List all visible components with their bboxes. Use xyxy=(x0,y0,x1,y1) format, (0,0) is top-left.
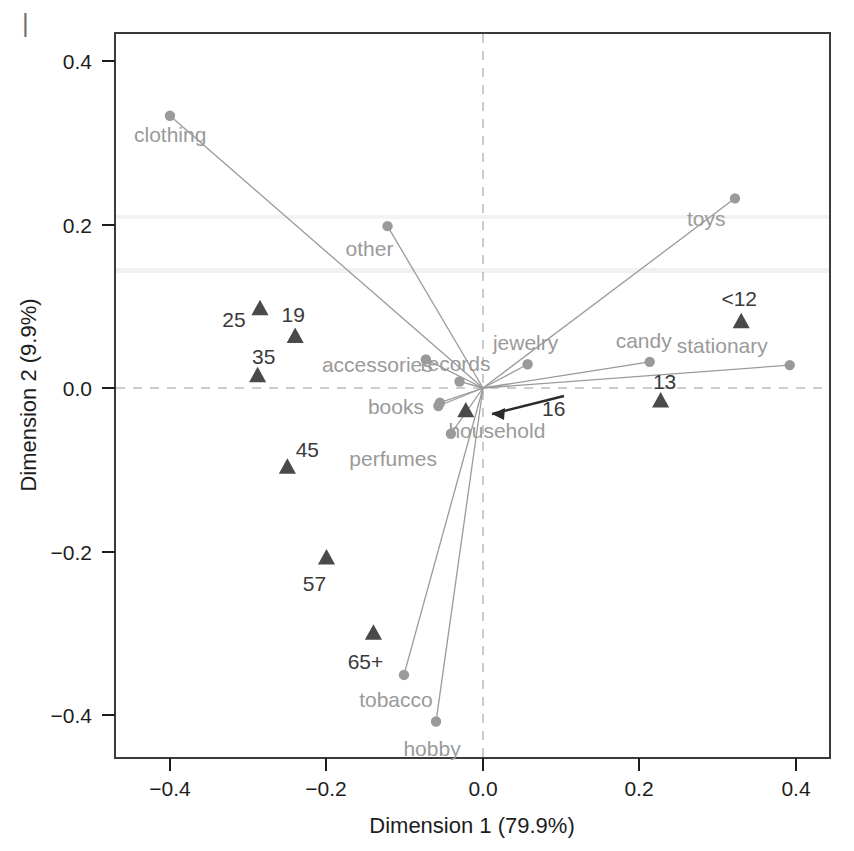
x-axis-title: Dimension 1 (79.9%) xyxy=(369,813,574,838)
category-point-label: household xyxy=(448,419,545,442)
origin-connector xyxy=(170,116,483,388)
correspondence-analysis-biplot: | −0.4 −0.2 0.0 0.2 0.4 Dimension 1 (79.… xyxy=(0,0,854,851)
category-point-marker[interactable] xyxy=(454,376,464,386)
age-group-point-marker[interactable] xyxy=(251,300,268,315)
age-group-point-label: 35 xyxy=(252,345,275,368)
age-group-point-label: <12 xyxy=(721,287,757,310)
category-point-marker[interactable] xyxy=(165,111,175,121)
age-group-point-label: 13 xyxy=(653,370,676,393)
x-tick-label: 0.2 xyxy=(624,777,653,800)
age-group-point-label: 45 xyxy=(296,438,319,461)
age-group-point-marker[interactable] xyxy=(733,313,750,328)
age-group-point-marker[interactable] xyxy=(318,549,335,564)
category-point-marker[interactable] xyxy=(431,716,441,726)
plot-frame xyxy=(115,33,830,758)
category-point-label: records xyxy=(421,352,491,375)
category-point-label: jewelry xyxy=(492,331,559,354)
category-point-label: hobby xyxy=(403,737,461,760)
category-point-marker[interactable] xyxy=(785,360,795,370)
x-axis: −0.4 −0.2 0.0 0.2 0.4 Dimension 1 (79.9%… xyxy=(149,758,811,838)
y-tick-label: 0.4 xyxy=(63,50,93,73)
y-tick-label: −0.2 xyxy=(51,541,92,564)
y-tick-label: 0.2 xyxy=(63,214,92,237)
age-group-point-marker[interactable] xyxy=(249,367,266,382)
category-point-label: accessories xyxy=(322,353,433,376)
y-axis: 0.4 0.2 0.0 −0.2 −0.4 Dimension 2 (9.9%) xyxy=(16,50,115,727)
x-tick-label: −0.4 xyxy=(149,777,191,800)
category-point-label: candy xyxy=(616,329,673,352)
category-point-marker[interactable] xyxy=(522,359,532,369)
biplot-canvas: | −0.4 −0.2 0.0 0.2 0.4 Dimension 1 (79.… xyxy=(0,0,854,851)
category-point-marker[interactable] xyxy=(730,193,740,203)
x-tick-label: −0.2 xyxy=(305,777,346,800)
category-point-marker[interactable] xyxy=(399,670,409,680)
age-group-point-label: 25 xyxy=(222,308,245,331)
age-group-point-label: 19 xyxy=(282,303,305,326)
age-group-point-marker[interactable] xyxy=(279,458,296,473)
age-group-point-label: 65+ xyxy=(348,650,384,673)
category-point-label: stationary xyxy=(677,334,769,357)
category-point-label: toys xyxy=(687,207,726,230)
category-point-label: books xyxy=(368,395,424,418)
y-tick-label: −0.4 xyxy=(51,704,93,727)
category-point-label: clothing xyxy=(134,123,206,146)
age-group-point-label: 57 xyxy=(303,572,326,595)
age-group-point-marker[interactable] xyxy=(365,624,382,639)
x-tick-label: 0.0 xyxy=(468,777,497,800)
category-point-marker[interactable] xyxy=(644,357,654,367)
category-point-marker[interactable] xyxy=(433,401,443,411)
category-point-label: tobacco xyxy=(359,688,433,711)
y-axis-title: Dimension 2 (9.9%) xyxy=(16,298,41,491)
category-point-label: other xyxy=(346,237,394,260)
age-group-point-marker[interactable] xyxy=(652,392,669,407)
x-tick-label: 0.4 xyxy=(781,777,811,800)
category-point-marker[interactable] xyxy=(382,221,392,231)
category-point-label: perfumes xyxy=(349,447,437,470)
page-corner-mark: | xyxy=(22,8,29,38)
y-tick-label: 0.0 xyxy=(63,377,92,400)
age-group-point-marker[interactable] xyxy=(287,327,304,342)
